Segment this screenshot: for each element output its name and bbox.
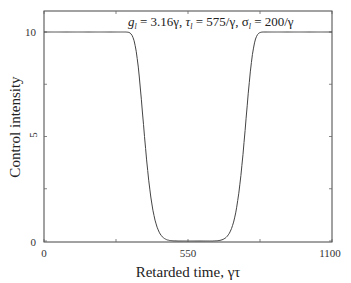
plot-frame <box>44 11 332 242</box>
axis-ticks <box>44 11 332 242</box>
y-tick-0: 0 <box>31 236 37 248</box>
x-tick-0: 0 <box>41 247 47 259</box>
x-axis-label: Retarded time, γτ <box>136 264 241 280</box>
parameter-annotation: gl = 3.16γ, τl = 575/γ, σl = 200/γ <box>128 14 294 31</box>
control-intensity-curve <box>44 32 332 241</box>
x-tick-1100: 1100 <box>319 247 341 259</box>
chart: 10 5 0 0 550 1100 Retarded time, γτ Cont… <box>0 0 351 283</box>
y-axis-label: Control intensity <box>7 76 23 178</box>
y-tick-5: 5 <box>27 132 39 138</box>
y-tick-10: 10 <box>25 26 37 38</box>
x-tick-550: 550 <box>180 247 197 259</box>
